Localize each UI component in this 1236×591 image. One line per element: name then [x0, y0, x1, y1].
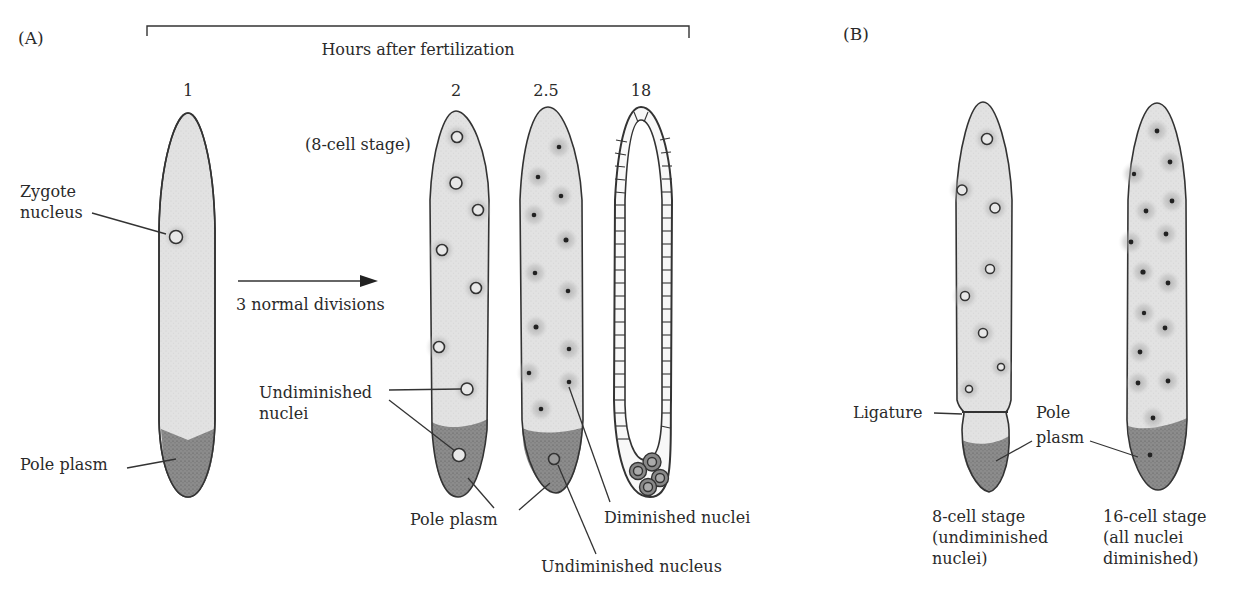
embryo-ligated-8-cell [948, 102, 1013, 492]
label-nucleus: nucleus [20, 203, 83, 222]
caption-16-cell-line3: diminished) [1103, 549, 1199, 568]
embryo-zygote [159, 113, 215, 497]
time-label-1: 1 [183, 81, 193, 100]
timeline-title: Hours after fertilization [321, 40, 514, 59]
label-8-cell-stage: (8-cell stage) [305, 135, 411, 154]
label-plasm: plasm [1036, 428, 1084, 447]
caption-8-cell-line1: 8-cell stage [932, 507, 1025, 526]
embryo-2h [425, 111, 492, 497]
label-undiminished-nucleus: Undiminished nucleus [541, 557, 722, 576]
pole-plasm-region [962, 436, 1009, 492]
label-ligature: Ligature [853, 403, 922, 422]
caption-8-cell-line3: nuclei) [932, 549, 988, 568]
label-pole: Pole [1036, 403, 1070, 422]
label-diminished-nuclei: Diminished nuclei [604, 508, 750, 527]
embryo-2-5h [516, 107, 583, 493]
time-label-2-5: 2.5 [533, 81, 558, 100]
embryo-18h [614, 107, 672, 497]
time-label-18: 18 [631, 81, 651, 100]
label-pole-plasm-left: Pole plasm [20, 455, 108, 474]
caption-8-cell-line2: (undiminished [932, 528, 1048, 547]
label-zygote: Zygote [20, 182, 76, 201]
label-pole-plasm-mid: Pole plasm [410, 510, 498, 529]
panel-label-b: (B) [843, 24, 869, 44]
timeline-bracket [147, 26, 689, 38]
time-label-2: 2 [451, 81, 461, 100]
label-undiminished: Undiminished [259, 383, 372, 402]
panel-label-a: (A) [18, 28, 44, 48]
label-nuclei: nuclei [259, 404, 308, 423]
caption-16-cell-line2: (all nuclei [1103, 528, 1183, 547]
caption-16-cell-line1: 16-cell stage [1103, 507, 1206, 526]
label-3-normal-divisions: 3 normal divisions [236, 295, 385, 314]
zygote-nucleus [170, 231, 183, 244]
figure-canvas: (A) (B) Hours after fertilization 1 2 2.… [0, 0, 1236, 591]
embryo-diagram: (A) (B) Hours after fertilization 1 2 2.… [0, 0, 1236, 591]
embryo-16-cell [1118, 103, 1187, 490]
arrow-right-icon [238, 275, 378, 287]
